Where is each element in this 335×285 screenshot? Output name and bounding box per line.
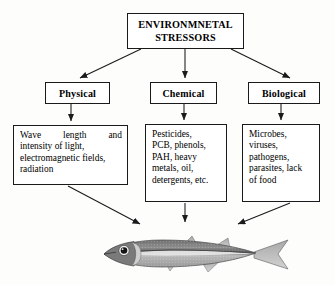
category-box-chemical: Chemical [150,82,217,104]
detail-box-biological: Microbes, viruses, pathogens, parasites,… [242,124,320,202]
detail-word: Wave [20,130,41,141]
detail-line: PAH, heavy [152,152,221,163]
detail-line: Pesticides, [152,129,221,140]
detail-line: radiation [20,164,122,175]
environmental-stressors-flowchart: ENVIRONMNETAL STRESSORS Physical Chemica… [0,0,335,285]
detail-line: viruses, [249,140,314,151]
arrow-root-to-physical [80,49,141,78]
category-label-biological: Biological [262,88,306,99]
root-title-line2: STRESSORS [155,32,216,43]
fish-illustration [96,228,292,282]
fish-eye-pupil [121,247,128,254]
fish-eye-glint [122,248,124,250]
detail-line: parasites, lack [249,163,314,174]
detail-word: length [63,130,86,141]
caudal-fin [254,240,288,269]
root-title-line1: ENVIRONMNETAL [138,19,233,30]
detail-box-chemical: Pesticides, PCB, phenols, PAH, heavy met… [145,124,227,202]
arrow-physical-detail-to-fish [68,186,140,224]
category-label-physical: Physical [59,88,96,99]
detail-line: metals, oil, [152,163,221,174]
arrow-biological-detail-to-fish [238,203,290,224]
detail-line: Microbes, [249,129,314,140]
detail-line: Wave length and [20,130,122,141]
category-label-chemical: Chemical [162,88,204,99]
category-box-physical: Physical [45,82,110,104]
detail-line: intensity of light, [20,141,122,152]
detail-box-physical: Wave length and intensity of light, elec… [13,125,128,185]
detail-line: electromagnetic fields, [20,153,122,164]
detail-line: of food [249,175,314,186]
detail-word: and [108,130,122,141]
arrow-root-to-biological [231,49,290,78]
environmental-stressors-box: ENVIRONMNETAL STRESSORS [127,13,244,49]
detail-line: PCB, phenols, [152,140,221,151]
category-box-biological: Biological [248,82,320,104]
detail-line: pathogens, [249,152,314,163]
detail-line: detergents, etc. [152,175,221,186]
